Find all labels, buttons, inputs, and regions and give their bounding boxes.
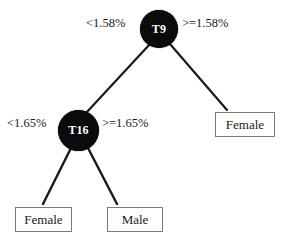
- edge-label-t16-right: >=1.65%: [102, 116, 148, 131]
- edge-t16-to-male: [88, 148, 117, 204]
- decision-tree-diagram: T9 T16 Female Female Male <1.58% >=1.58%…: [0, 0, 283, 241]
- edge-label-t9-right: >=1.58%: [182, 16, 228, 31]
- edge-label-t16-left: <1.65%: [7, 116, 46, 131]
- tree-node-t9[interactable]: T9: [140, 10, 178, 48]
- tree-node-t16[interactable]: T16: [58, 110, 99, 151]
- leaf-node-male[interactable]: Male: [107, 207, 163, 232]
- leaf-node-female-right[interactable]: Female: [215, 112, 275, 137]
- edge-t16-to-female-left: [43, 148, 71, 204]
- edge-t9-to-t16: [86, 44, 150, 113]
- leaf-node-female-left[interactable]: Female: [15, 207, 72, 232]
- edge-label-t9-left: <1.58%: [86, 16, 125, 31]
- edge-t9-to-female-right: [170, 44, 227, 110]
